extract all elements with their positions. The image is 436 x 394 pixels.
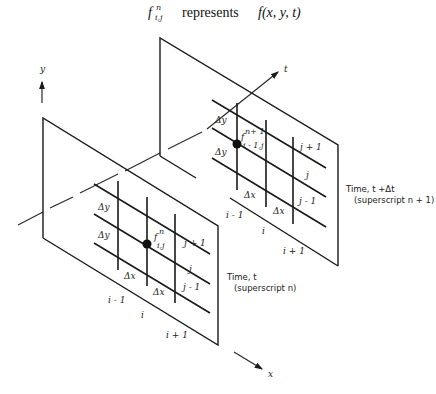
header-verb: represents <box>182 5 239 20</box>
x-axis: x <box>234 352 273 379</box>
row-label-j-minus-1: j - 1 <box>181 282 200 292</box>
t-axis-segment <box>125 153 160 171</box>
plane-t: f n i,j Δy Δy Δx Δx j + 1 j j - 1 i - 1 … <box>43 118 296 345</box>
grid-row-line <box>212 128 326 197</box>
plane-caption: Time, t <box>226 272 257 282</box>
point-label-sup: n+ 1 <box>245 127 265 136</box>
dx-label: Δx <box>152 287 165 297</box>
t-axis-segment <box>80 174 118 193</box>
point-label-sup: n <box>159 227 164 236</box>
y-axis: y <box>39 64 46 103</box>
row-label-j-minus-1: j - 1 <box>297 196 316 206</box>
dy-label: Δy <box>97 202 110 212</box>
header-symbol-sub: i,j <box>155 13 163 22</box>
plane-outline-bottom <box>160 156 196 178</box>
dx-label: Δx <box>123 271 136 281</box>
t-axis-label: t <box>284 64 288 74</box>
row-label-j-plus-1: j + 1 <box>182 238 206 248</box>
grid-row-line <box>212 100 326 168</box>
col-label-i-plus-1: i + 1 <box>166 330 188 340</box>
point-label-sub: i,j <box>157 241 165 250</box>
y-axis-label: y <box>39 64 46 74</box>
plane-outline <box>43 118 218 345</box>
t-axis-segment <box>168 132 202 149</box>
dx-label: Δx <box>272 206 285 216</box>
plane-caption-sub: (superscript n + 1) <box>354 195 434 205</box>
grid-point-i-j <box>143 240 152 249</box>
plane-caption-sub: (superscript n) <box>234 283 296 293</box>
row-label-j-plus-1: j + 1 <box>298 142 322 152</box>
row-label-j: j <box>187 264 192 274</box>
t-axis-segment <box>50 197 73 208</box>
x-axis-arrow <box>234 352 262 369</box>
col-label-i: i <box>262 226 265 236</box>
header-function: f(x, y, t) <box>258 5 301 21</box>
row-label-j: j <box>304 170 309 180</box>
dy-label: Δy <box>214 115 227 125</box>
t-axis-segment <box>18 212 43 225</box>
plane-outline <box>160 38 338 266</box>
header-symbol-sup: n <box>156 3 161 12</box>
grid-row-line <box>94 214 210 284</box>
dy-label: Δy <box>214 147 227 157</box>
dx-label: Δx <box>243 190 256 200</box>
header-symbol: f <box>148 5 154 20</box>
plane-t-plus-dt: f n+ 1 i - 1,j Δy Δy Δx Δx j + 1 j j - 1… <box>160 38 434 266</box>
col-label-i-minus-1: i - 1 <box>226 210 243 220</box>
x-axis-label: x <box>268 369 273 379</box>
finite-difference-grid-diagram: f n i,j represents f(x, y, t) y t f n+ <box>0 0 436 394</box>
col-label-i-minus-1: i - 1 <box>108 295 125 305</box>
col-label-i-plus-1: i + 1 <box>283 246 305 256</box>
header-formula: f n i,j represents f(x, y, t) <box>148 3 301 22</box>
dy-label: Δy <box>97 230 110 240</box>
plane-caption: Time, t +Δt <box>345 184 395 194</box>
col-label-i: i <box>141 310 144 320</box>
point-label-sub: i - 1,j <box>243 141 264 150</box>
